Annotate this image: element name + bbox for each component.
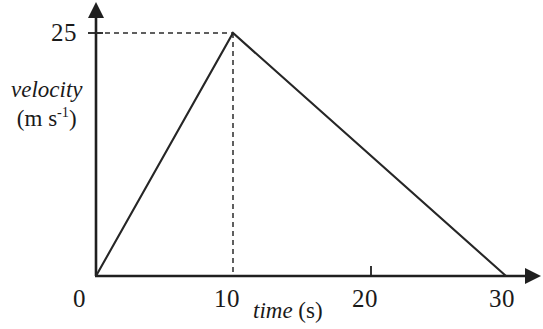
x-axis-tick-label-0: 0 bbox=[73, 286, 86, 311]
y-axis-unit-close: ) bbox=[69, 106, 77, 131]
y-axis-unit-open: (m s bbox=[17, 106, 57, 131]
y-axis-title: velocity (m s-1) bbox=[11, 78, 83, 130]
x-axis-arrowhead bbox=[525, 268, 541, 284]
y-axis-unit-exponent: -1 bbox=[57, 104, 69, 120]
x-axis-tick-label-20: 20 bbox=[352, 286, 378, 311]
x-axis-title: time (s) bbox=[253, 299, 323, 322]
chart-canvas bbox=[0, 0, 543, 329]
velocity-data-line bbox=[96, 33, 506, 276]
velocity-time-chart: 25 0 10 20 30 velocity (m s-1) time (s) bbox=[0, 0, 543, 329]
y-axis-tick-label-25: 25 bbox=[51, 20, 77, 45]
y-axis-title-quantity: velocity bbox=[11, 77, 83, 102]
x-axis-title-quantity: time bbox=[253, 298, 293, 323]
y-axis-title-unit: (m s-1) bbox=[11, 107, 83, 130]
x-axis-tick-label-30: 30 bbox=[489, 286, 515, 311]
x-axis-title-unit: (s) bbox=[293, 298, 323, 323]
x-axis-tick-label-10: 10 bbox=[214, 286, 240, 311]
y-axis-arrowhead bbox=[88, 2, 104, 18]
